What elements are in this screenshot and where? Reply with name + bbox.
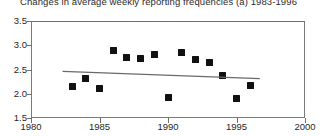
x-axis-tick-label: 1980: [11, 122, 51, 132]
y-axis-tick: [27, 94, 32, 95]
data-point-marker: [82, 75, 89, 82]
plot-frame: [31, 21, 305, 118]
y-axis-tick: [27, 21, 32, 22]
data-point-marker: [151, 51, 158, 58]
y-axis-tick-label: 2.5: [3, 65, 27, 75]
y-axis-tick-label: 3.0: [3, 40, 27, 50]
data-point-marker: [69, 83, 76, 90]
y-axis-tick-label: 2.0: [3, 89, 27, 99]
x-axis-tick-label: 1990: [148, 122, 188, 132]
chart-root: Changes in average weekly reporting freq…: [0, 0, 330, 136]
chart-title: Changes in average weekly reporting freq…: [20, 0, 325, 9]
data-point-marker: [178, 49, 185, 56]
data-point-marker: [96, 85, 103, 92]
data-point-marker: [247, 81, 254, 88]
data-point-marker: [137, 55, 144, 62]
data-point-marker: [110, 47, 117, 54]
x-axis-tick-label: 1985: [80, 122, 120, 132]
y-axis-tick: [27, 45, 32, 46]
data-point-marker: [206, 59, 213, 66]
data-point-marker: [164, 94, 171, 101]
data-point-marker: [123, 54, 130, 61]
y-axis-tick-label: 3.5: [3, 16, 27, 26]
x-axis-tick-label: 1995: [217, 122, 257, 132]
data-point-marker: [192, 56, 199, 63]
data-point-marker: [219, 72, 226, 79]
y-axis-tick: [27, 70, 32, 71]
x-axis-tick-label: 2000: [285, 122, 325, 132]
data-point-marker: [233, 95, 240, 102]
